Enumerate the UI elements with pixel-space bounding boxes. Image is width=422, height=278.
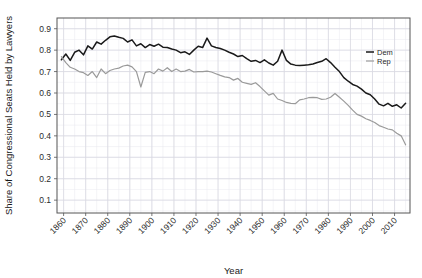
line-chart: 0.10.20.30.40.50.60.70.80.91860187018801… — [0, 0, 422, 278]
y-axis-tick-label: 0.9 — [39, 24, 51, 34]
legend-label-rep: Rep — [377, 57, 391, 66]
x-axis-tick-label: 1980 — [312, 215, 333, 236]
x-axis-title: Year — [224, 265, 243, 276]
x-axis-tick-label: 1900 — [136, 215, 157, 236]
y-axis-tick-label: 0.7 — [39, 67, 51, 77]
x-axis-tick-label: 1950 — [246, 215, 267, 236]
y-axis-tick-label: 0.3 — [39, 152, 51, 162]
x-axis-tick-label: 1940 — [224, 215, 245, 236]
y-axis-tick-label: 0.6 — [39, 88, 51, 98]
x-axis-tick-label: 1870 — [70, 215, 91, 236]
chart-figure: 0.10.20.30.40.50.60.70.80.91860187018801… — [0, 0, 422, 278]
x-axis-tick-label: 1990 — [334, 215, 355, 236]
y-axis-tick-label: 0.4 — [39, 131, 51, 141]
y-axis: 0.10.20.30.40.50.60.70.80.9 — [39, 24, 57, 205]
y-axis-tick-label: 0.1 — [39, 195, 51, 205]
x-axis-tick-label: 2010 — [379, 215, 400, 236]
legend-label-dem: Dem — [377, 48, 393, 57]
x-axis-tick-label: 1890 — [114, 215, 135, 236]
x-axis-tick-label: 1860 — [48, 215, 69, 236]
x-axis-tick-label: 1920 — [180, 215, 201, 236]
x-axis-tick-label: 1960 — [268, 215, 289, 236]
x-axis-tick-label: 1970 — [290, 215, 311, 236]
y-axis-tick-label: 0.5 — [39, 109, 51, 119]
x-axis: 1860187018801890190019101920193019401950… — [48, 213, 400, 236]
x-axis-tick-label: 1880 — [92, 215, 113, 236]
y-axis-title: Share of Congressional Seats Held by Law… — [3, 16, 14, 215]
y-axis-tick-label: 0.8 — [39, 45, 51, 55]
y-axis-tick-label: 0.2 — [39, 174, 51, 184]
x-axis-tick-label: 1910 — [158, 215, 179, 236]
plot-panel-background — [57, 18, 410, 213]
x-axis-tick-label: 2000 — [356, 215, 377, 236]
x-axis-tick-label: 1930 — [202, 215, 223, 236]
